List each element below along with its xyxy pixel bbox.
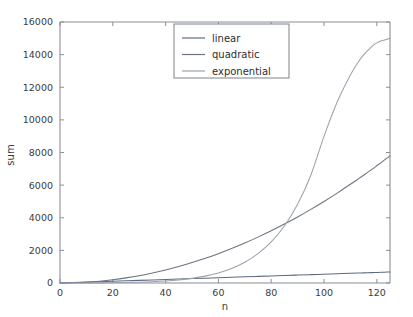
legend-label-linear[interactable]: linear [212,33,241,44]
y-tick-label: 12000 [23,82,53,93]
x-tick-label: 100 [315,287,333,298]
y-tick-label: 10000 [23,114,53,125]
legend-label-quadratic[interactable]: quadratic [212,49,260,60]
y-tick-label: 2000 [29,245,53,256]
chart-figure: 0200040006000800010000120001400016000 02… [0,0,413,317]
y-axis-title: sum [5,144,16,165]
y-tick-label: 16000 [23,16,53,27]
y-tick-label: 14000 [23,49,53,60]
x-tick-label: 80 [265,287,277,298]
x-axis-title: n [222,301,228,312]
chart-legend[interactable]: linearquadraticexponential [174,24,289,78]
y-tick-label: 4000 [29,212,53,223]
chart-canvas: 0200040006000800010000120001400016000 02… [0,0,413,317]
y-tick-label: 8000 [29,147,53,158]
x-tick-label: 20 [107,287,119,298]
y-tick-label: 0 [47,277,53,288]
legend-label-exponential[interactable]: exponential [212,66,271,77]
x-tick-label: 120 [368,287,386,298]
y-tick-label: 6000 [29,180,53,191]
x-tick-label: 40 [160,287,172,298]
x-tick-label: 60 [212,287,224,298]
x-tick-label: 0 [57,287,63,298]
